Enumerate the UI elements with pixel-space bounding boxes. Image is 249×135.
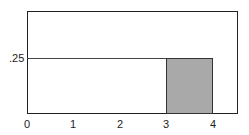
- bar-3-to-4: [166, 58, 213, 114]
- reference-line-025: [27, 58, 167, 59]
- x-tick-label-0: 0: [24, 118, 30, 130]
- x-tick-label-4: 4: [210, 118, 216, 130]
- x-tick-label-1: 1: [70, 118, 76, 130]
- x-tick-label-2: 2: [117, 118, 123, 130]
- y-tick-label-025: .25: [9, 52, 24, 64]
- x-tick-label-3: 3: [163, 118, 169, 130]
